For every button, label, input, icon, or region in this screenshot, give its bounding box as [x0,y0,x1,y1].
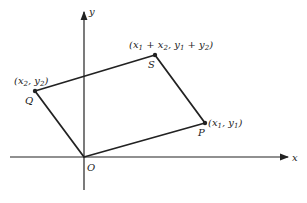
parallelogram [35,55,205,157]
point-q [33,89,37,93]
point-p [203,121,207,125]
point-p-coords: (x1, y1) [208,117,243,130]
point-s [153,53,157,57]
point-s-coords: (x1 + x2, y1 + y2) [129,39,213,52]
point-s-label: S [148,59,155,70]
y-axis-label: y [88,6,95,17]
x-axis-label: x [292,152,298,163]
point-p-label: P [197,127,205,138]
parallelogram-diagram: x y O P Q S (x1, y1) (x2, y2) (x1 + x2, … [0,0,307,203]
point-q-label: Q [25,95,33,106]
origin-label: O [87,162,95,173]
point-q-coords: (x2, y2) [14,75,49,88]
